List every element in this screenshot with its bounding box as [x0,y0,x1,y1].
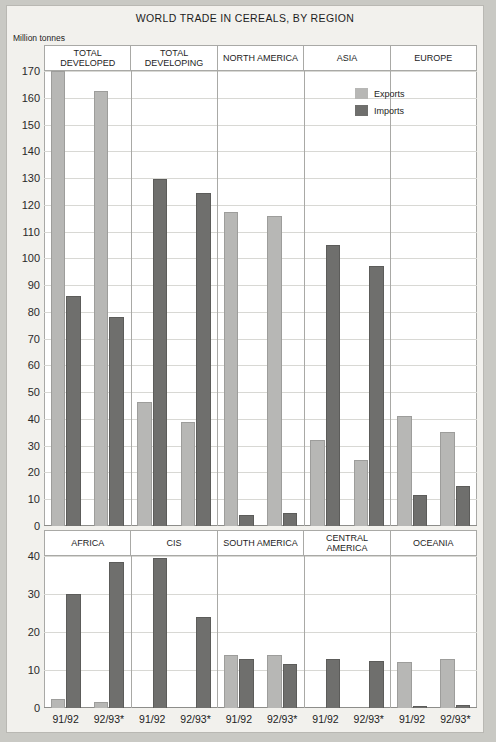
y-axis-tick-label: 20 [6,466,40,478]
bar-exports [51,699,66,709]
bar-exports [440,659,455,708]
gridline [44,151,477,152]
region-header-cell: CENTRAL AMERICA [304,531,390,555]
bar-exports [267,655,282,708]
bar-imports [109,562,124,708]
bar-exports [224,212,239,526]
region-header-cell: AFRICA [45,531,131,555]
gridline [44,71,477,72]
legend-swatch-exports [355,88,368,99]
x-axis-tick-label: 91/92 [53,713,79,725]
bar-imports [456,705,471,708]
region-header-cell: CIS [131,531,217,555]
group-separator [390,556,391,708]
region-header-cell: TOTAL DEVELOPED [45,46,131,70]
bar-imports [196,193,211,526]
chart-title: WORLD TRADE IN CEREALS, BY REGION [7,12,483,24]
gridline [44,258,477,259]
region-header-cell: NORTH AMERICA [218,46,304,70]
x-axis-tick-label: 92/93* [94,713,124,725]
y-axis-tick-label: 40 [6,413,40,425]
y-axis-tick-label: 0 [6,520,40,532]
y-axis-tick-label: 70 [6,333,40,345]
gridline [44,312,477,313]
group-separator [304,71,305,526]
bar-exports [267,216,282,526]
bar-exports [440,432,455,526]
bar-exports [310,440,325,526]
y-axis-tick-label: 50 [6,386,40,398]
x-axis-tick-label: 92/93* [354,713,384,725]
region-header-cell: ASIA [304,46,390,70]
x-axis-tick-label: 91/92 [139,713,165,725]
bar-exports [181,422,196,526]
y-axis-tick-label: 60 [6,359,40,371]
bar-exports [397,416,412,526]
bar-imports [369,661,384,709]
x-axis-tick-label: 92/93* [440,713,470,725]
group-separator [304,556,305,708]
gridline [44,205,477,206]
group-separator [217,556,218,708]
bar-imports [283,513,298,526]
bar-imports [413,706,428,708]
region-header-cell: OCEANIA [391,531,476,555]
region-header-cell: TOTAL DEVELOPING [131,46,217,70]
gridline [44,125,477,126]
y-axis-tick-label: 30 [6,440,40,452]
chart-frame: WORLD TRADE IN CEREALS, BY REGION Millio… [6,5,484,733]
x-axis-tick-label: 91/92 [399,713,425,725]
x-axis-tick-label: 92/93* [267,713,297,725]
bar-exports [137,402,152,526]
legend-label-exports: Exports [374,89,405,99]
bar-imports [109,317,124,526]
y-axis-tick-label: 110 [6,226,40,238]
bar-imports [153,179,168,526]
legend-item-imports: Imports [355,105,405,116]
legend-item-exports: Exports [355,88,405,99]
gridline [44,285,477,286]
y-axis-tick-label: 140 [6,145,40,157]
y-axis-tick-label: 10 [6,493,40,505]
bar-exports [94,91,109,526]
bar-exports [51,71,66,526]
y-axis-tick-label: 90 [6,279,40,291]
y-axis-tick-label: 130 [6,172,40,184]
bar-imports [283,664,298,708]
y-axis-tick-label: 160 [6,92,40,104]
y-axis-tick-label: 40 [6,550,40,562]
x-axis-tick-label: 91/92 [312,713,338,725]
bar-imports [239,659,254,708]
bar-imports [66,296,81,526]
group-separator [131,556,132,708]
legend-swatch-imports [355,105,368,116]
gridline [44,556,477,557]
group-separator [217,71,218,526]
group-separator [390,71,391,526]
bar-imports [369,266,384,526]
bar-imports [326,245,341,526]
y-axis-units-label: Million tonnes [13,33,65,43]
legend-label-imports: Imports [374,106,404,116]
chart-lower: 01020304091/9292/93*91/9292/93*91/9292/9… [44,556,477,708]
group-separator [131,71,132,526]
y-axis-tick-label: 0 [6,702,40,714]
y-axis-tick-label: 120 [6,199,40,211]
y-axis-tick-label: 80 [6,306,40,318]
chart-legend: Exports Imports [355,88,405,122]
y-axis-tick-label: 20 [6,626,40,638]
y-axis-tick-label: 30 [6,588,40,600]
region-header-row-lower: AFRICACISSOUTH AMERICACENTRAL AMERICAOCE… [44,530,477,556]
bar-exports [354,460,369,526]
bar-exports [397,662,412,708]
bar-exports [94,702,109,708]
gridline [44,178,477,179]
x-axis-tick-label: 91/92 [226,713,252,725]
region-header-cell: SOUTH AMERICA [218,531,304,555]
chart-upper: 0102030405060708090100110120130140150160… [44,71,477,526]
bar-imports [153,558,168,708]
y-axis-tick-label: 10 [6,664,40,676]
gridline [44,232,477,233]
y-axis-tick-label: 170 [6,65,40,77]
bar-imports [239,515,254,526]
